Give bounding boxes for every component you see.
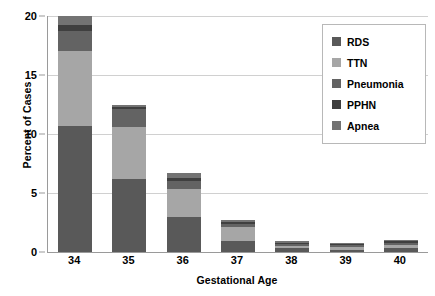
legend: RDSTTNPneumoniaPPHNApnea [322, 24, 426, 144]
bar-segment-rds[interactable] [58, 126, 92, 252]
stacked-bar[interactable] [58, 16, 92, 252]
bar-segment-pneumonia[interactable] [112, 109, 146, 127]
y-axis-tick-labels: 05101520 [0, 0, 47, 296]
stacked-bar[interactable] [330, 243, 364, 252]
bar-slot [48, 16, 102, 252]
legend-swatch-icon [332, 79, 341, 88]
x-tick-label: 35 [101, 254, 155, 272]
bar-segment-apnea[interactable] [58, 16, 92, 25]
y-tick-mark [39, 193, 45, 194]
y-tick-mark [39, 16, 45, 17]
y-tick-mark [39, 75, 45, 76]
y-tick-mark [39, 134, 45, 135]
stacked-bar[interactable] [384, 240, 418, 252]
bar-segment-rds[interactable] [221, 241, 255, 252]
legend-label: TTN [347, 57, 367, 69]
x-tick-label: 39 [318, 254, 372, 272]
bar-slot [265, 16, 319, 252]
legend-swatch-icon [332, 100, 341, 109]
legend-swatch-icon [332, 58, 341, 67]
bar-slot [211, 16, 265, 252]
legend-item-pneumonia[interactable]: Pneumonia [323, 73, 425, 94]
legend-item-rds[interactable]: RDS [323, 31, 425, 52]
legend-item-ttn[interactable]: TTN [323, 52, 425, 73]
bar-segment-rds[interactable] [384, 248, 418, 252]
legend-label: Pneumonia [347, 78, 404, 90]
legend-item-pphn[interactable]: PPHN [323, 94, 425, 115]
y-tick-label: 0 [31, 246, 37, 258]
y-tick-label: 5 [31, 187, 37, 199]
legend-swatch-icon [332, 121, 341, 130]
bar-segment-ttn[interactable] [167, 189, 201, 216]
bar-slot [157, 16, 211, 252]
x-axis-title: Gestational Age [47, 274, 427, 286]
bar-segment-pneumonia[interactable] [167, 181, 201, 189]
y-tick-label: 20 [25, 10, 37, 22]
bar-segment-ttn[interactable] [58, 51, 92, 125]
y-tick-label: 10 [25, 128, 37, 140]
legend-label: Apnea [347, 120, 379, 132]
x-tick-label: 36 [156, 254, 210, 272]
stacked-bar[interactable] [221, 220, 255, 252]
x-tick-label: 37 [210, 254, 264, 272]
bar-segment-ttn[interactable] [221, 227, 255, 241]
x-tick-label: 40 [373, 254, 427, 272]
x-tick-label: 38 [264, 254, 318, 272]
legend-item-apnea[interactable]: Apnea [323, 115, 425, 136]
bar-segment-ttn[interactable] [112, 127, 146, 179]
stacked-bar[interactable] [167, 173, 201, 252]
legend-swatch-icon [332, 37, 341, 46]
bar-segment-rds[interactable] [112, 179, 146, 252]
legend-label: PPHN [347, 99, 376, 111]
bar-segment-rds[interactable] [167, 217, 201, 252]
stacked-bar[interactable] [275, 241, 309, 252]
bar-slot [102, 16, 156, 252]
y-tick-label: 15 [25, 69, 37, 81]
bar-segment-pneumonia[interactable] [58, 31, 92, 51]
y-tick-mark [39, 252, 45, 253]
x-axis-tick-labels: 34353637383940 [47, 254, 427, 272]
legend-label: RDS [347, 36, 369, 48]
stacked-bar-chart: Percent of Cases 05101520 34353637383940… [0, 0, 435, 296]
bar-segment-rds[interactable] [275, 248, 309, 252]
x-tick-label: 34 [47, 254, 101, 272]
bar-segment-rds[interactable] [330, 250, 364, 252]
stacked-bar[interactable] [112, 105, 146, 252]
